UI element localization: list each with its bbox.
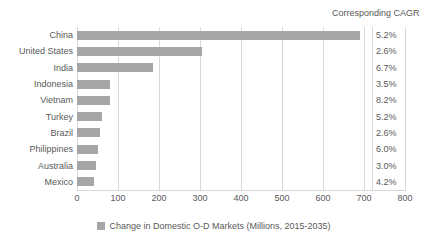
bar-mexico — [77, 177, 94, 186]
bar-row — [77, 125, 405, 141]
bar-chart: Corresponding CAGR ChinaUnited StatesInd… — [0, 0, 428, 243]
cagr-value-indonesia: 3.5% — [376, 76, 428, 92]
bar-india — [77, 63, 153, 72]
cagr-value-mexico: 4.2% — [376, 174, 428, 190]
legend-swatch-icon — [97, 222, 105, 230]
legend-label: Change in Domestic O-D Markets (Millions… — [109, 221, 330, 231]
category-label-vietnam: Vietnam — [0, 92, 73, 108]
x-tick-0: 0 — [74, 193, 79, 203]
x-tick-400: 400 — [233, 193, 248, 203]
cagr-value-india: 6.7% — [376, 60, 428, 76]
cagr-value-united-states: 2.6% — [376, 43, 428, 59]
cagr-value-turkey: 5.2% — [376, 109, 428, 125]
category-label-china: China — [0, 27, 73, 43]
bar-row — [77, 76, 405, 92]
x-tick-800: 800 — [397, 193, 412, 203]
x-tick-600: 600 — [315, 193, 330, 203]
x-tick-300: 300 — [192, 193, 207, 203]
x-tick-700: 700 — [356, 193, 371, 203]
category-label-united-states: United States — [0, 43, 73, 59]
bar-china — [77, 31, 360, 40]
y-axis-category-labels: ChinaUnited StatesIndiaIndonesiaVietnamT… — [0, 27, 73, 190]
cagr-value-column: 5.2%2.6%6.7%3.5%8.2%5.2%2.6%6.0%3.0%4.2% — [376, 27, 428, 190]
bar-row — [77, 174, 405, 190]
cagr-value-vietnam: 8.2% — [376, 92, 428, 108]
cagr-value-philippines: 6.0% — [376, 141, 428, 157]
bar-philippines — [77, 145, 98, 154]
x-axis-tick-labels: 0100200300400500600700800 — [77, 193, 405, 207]
cagr-column-divider — [372, 27, 373, 190]
cagr-column-header: Corresponding CAGR — [332, 8, 428, 18]
x-tick-100: 100 — [110, 193, 125, 203]
x-axis-line — [77, 190, 406, 191]
bar-australia — [77, 161, 96, 170]
x-tick-200: 200 — [151, 193, 166, 203]
bar-row — [77, 43, 405, 59]
category-label-philippines: Philippines — [0, 141, 73, 157]
category-label-turkey: Turkey — [0, 109, 73, 125]
x-tick-500: 500 — [274, 193, 289, 203]
cagr-value-brazil: 2.6% — [376, 125, 428, 141]
cagr-value-australia: 3.0% — [376, 157, 428, 173]
bar-row — [77, 157, 405, 173]
bar-row — [77, 92, 405, 108]
plot-area — [77, 27, 405, 190]
bar-brazil — [77, 128, 100, 137]
bar-rows — [77, 27, 405, 190]
bar-indonesia — [77, 80, 110, 89]
category-label-indonesia: Indonesia — [0, 76, 73, 92]
category-label-mexico: Mexico — [0, 174, 73, 190]
bar-row — [77, 109, 405, 125]
bar-vietnam — [77, 96, 110, 105]
category-label-australia: Australia — [0, 157, 73, 173]
category-label-brazil: Brazil — [0, 125, 73, 141]
category-label-india: India — [0, 60, 73, 76]
cagr-value-china: 5.2% — [376, 27, 428, 43]
bar-row — [77, 60, 405, 76]
bar-united-states — [77, 47, 202, 56]
bar-turkey — [77, 112, 102, 121]
bar-row — [77, 141, 405, 157]
chart-legend: Change in Domestic O-D Markets (Millions… — [0, 221, 428, 231]
bar-row — [77, 27, 405, 43]
